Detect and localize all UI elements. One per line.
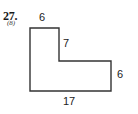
dimension-label-top: 6 <box>39 12 45 23</box>
dimension-label-bottom: 17 <box>63 96 75 107</box>
dimension-label-right-vertical: 6 <box>117 69 123 80</box>
dimension-label-inner-vertical: 7 <box>63 38 69 49</box>
worksheet-problem-figure: 27. (8) 6 7 6 17 <box>0 0 138 114</box>
l-shape-outline <box>30 28 111 91</box>
